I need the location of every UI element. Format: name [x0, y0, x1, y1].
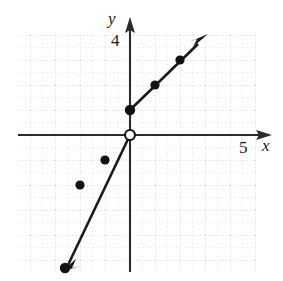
- grid-layer: [18, 35, 258, 272]
- point-open-origin: [125, 130, 135, 140]
- point-filled-neg2: [75, 180, 84, 189]
- point-filled-neg1: [100, 155, 109, 164]
- point-filled-endpoint-upper: [125, 105, 135, 115]
- major-gridlines: [18, 35, 258, 272]
- point-filled-terminal-lower: [60, 263, 70, 273]
- graph-figure: y 4 x 5: [0, 0, 283, 281]
- x-axis-tick-label-5: 5: [239, 139, 248, 156]
- y-axis-label: y: [108, 10, 116, 27]
- y-axis-tick-label-4: 4: [111, 32, 120, 49]
- point-filled-pos1: [150, 80, 159, 89]
- point-filled-pos2: [175, 55, 184, 64]
- x-axis-label: x: [262, 137, 270, 154]
